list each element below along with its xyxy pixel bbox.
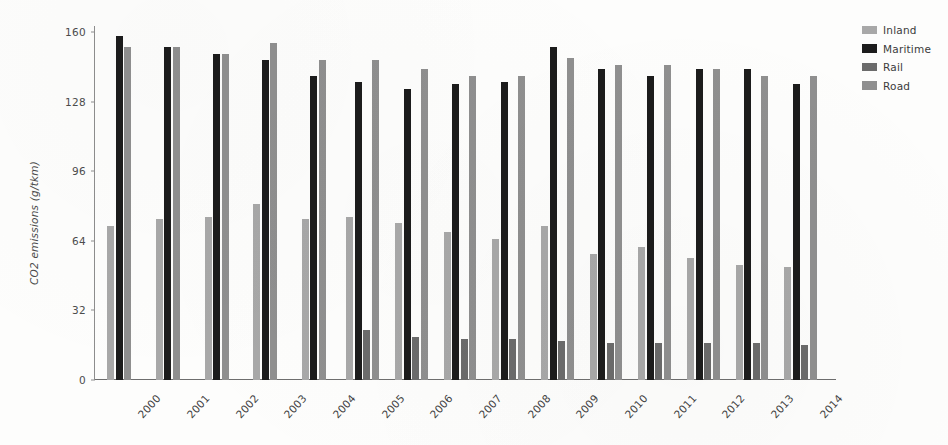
bar-maritime — [793, 84, 800, 380]
x-tick-label: 2010 — [622, 392, 649, 420]
bar-group — [728, 32, 777, 380]
legend-item-road[interactable]: Road — [862, 80, 931, 92]
bar-inland — [492, 239, 499, 380]
bar-maritime — [647, 76, 654, 381]
bar-rail — [801, 345, 808, 380]
y-tick-label: 0 — [79, 374, 86, 386]
bar-maritime — [452, 84, 459, 380]
bar-group — [144, 32, 193, 380]
bar-maritime — [501, 82, 508, 380]
bar-group — [776, 32, 825, 380]
x-tick-label: 2006 — [428, 392, 455, 420]
legend-swatch-icon — [862, 63, 877, 72]
bar-group — [484, 32, 533, 380]
bar-road — [469, 76, 476, 381]
legend-swatch-icon — [862, 26, 877, 35]
x-tick-label: 2003 — [282, 392, 309, 420]
x-tick-label: 2005 — [379, 392, 406, 420]
bar-road — [222, 54, 229, 380]
bar-road — [124, 47, 131, 380]
plot-area: 0326496128160 20002001200220032004200520… — [95, 32, 825, 380]
bar-inland — [444, 232, 451, 380]
bar-road — [810, 76, 817, 381]
x-tick-label: 2001 — [184, 392, 211, 420]
chart-page: CO2 emissions (g/tkm) 0326496128160 2000… — [0, 0, 948, 445]
bar-group — [436, 32, 485, 380]
bar-group — [582, 32, 631, 380]
bar-inland — [395, 223, 402, 380]
bar-group — [241, 32, 290, 380]
bar-rail — [655, 343, 662, 380]
bar-road — [319, 60, 326, 380]
bar-inland — [156, 219, 163, 380]
bar-road — [761, 76, 768, 381]
y-axis-title: CO2 emissions (g/tkm) — [28, 161, 40, 285]
bar-inland — [205, 217, 212, 380]
bar-rail — [363, 330, 370, 380]
bar-road — [270, 43, 277, 380]
bar-inland — [784, 267, 791, 380]
bar-group — [290, 32, 339, 380]
legend-swatch-icon — [862, 44, 877, 53]
bar-maritime — [696, 69, 703, 380]
x-tick-label: 2008 — [525, 392, 552, 420]
bar-group — [95, 32, 144, 380]
y-tick-label: 64 — [72, 235, 86, 247]
bar-inland — [107, 226, 114, 380]
bar-road — [615, 65, 622, 380]
legend-label: Maritime — [883, 43, 931, 55]
x-tick-label: 2013 — [768, 392, 795, 420]
legend-item-maritime[interactable]: Maritime — [862, 43, 931, 55]
bar-group — [533, 32, 582, 380]
bar-maritime — [404, 89, 411, 380]
bar-road — [713, 69, 720, 380]
legend-swatch-icon — [862, 81, 877, 90]
bar-maritime — [164, 47, 171, 380]
bar-road — [421, 69, 428, 380]
bar-maritime — [744, 69, 751, 380]
bar-road — [567, 58, 574, 380]
bar-rail — [461, 339, 468, 380]
legend-label: Rail — [883, 61, 903, 73]
legend-item-rail[interactable]: Rail — [862, 61, 931, 73]
bar-inland — [541, 226, 548, 380]
bar-inland — [736, 265, 743, 380]
bar-rail — [753, 343, 760, 380]
bar-inland — [687, 258, 694, 380]
bar-group — [630, 32, 679, 380]
y-tick-label: 32 — [72, 304, 86, 316]
x-tick-label: 2012 — [720, 392, 747, 420]
bar-group — [192, 32, 241, 380]
bar-maritime — [598, 69, 605, 380]
x-tick-label: 2004 — [330, 392, 357, 420]
bar-inland — [346, 217, 353, 380]
bar-inland — [638, 247, 645, 380]
y-tick-label: 128 — [65, 96, 86, 108]
legend-item-inland[interactable]: Inland — [862, 24, 931, 36]
bar-maritime — [550, 47, 557, 380]
bar-road — [518, 76, 525, 381]
y-tick-label: 160 — [65, 26, 86, 38]
bar-maritime — [355, 82, 362, 380]
bar-group — [338, 32, 387, 380]
x-tick-label: 2009 — [574, 392, 601, 420]
bar-inland — [253, 204, 260, 380]
bar-group — [387, 32, 436, 380]
bar-rail — [607, 343, 614, 380]
y-tick-label: 96 — [72, 165, 86, 177]
bar-road — [173, 47, 180, 380]
bar-inland — [590, 254, 597, 380]
bar-road — [372, 60, 379, 380]
bar-rail — [558, 341, 565, 380]
x-tick-label: 2014 — [817, 392, 844, 420]
legend-label: Inland — [883, 24, 917, 36]
bar-maritime — [116, 36, 123, 380]
x-tick-label: 2002 — [233, 392, 260, 420]
legend-label: Road — [883, 80, 910, 92]
bar-rail — [704, 343, 711, 380]
bar-maritime — [213, 54, 220, 380]
x-tick-label: 2007 — [476, 392, 503, 420]
x-tick-label: 2000 — [136, 392, 163, 420]
bar-rail — [509, 339, 516, 380]
bar-rail — [412, 337, 419, 381]
